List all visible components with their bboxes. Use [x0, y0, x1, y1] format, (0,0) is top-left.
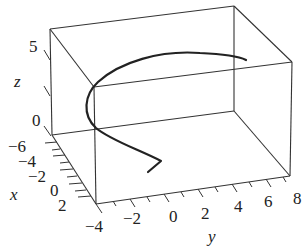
y-axis-ticks — [96, 177, 286, 213]
z-axis-ticks — [44, 50, 51, 136]
y-tick-neg2: −2 — [123, 209, 141, 228]
x-tick-2: 2 — [58, 196, 67, 215]
y-tick-8: 8 — [293, 189, 302, 208]
z-tick-5: 5 — [29, 37, 38, 56]
y-tick-neg4: −4 — [85, 217, 104, 236]
y-axis-label: y — [206, 227, 216, 246]
y-tick-6: 6 — [264, 192, 273, 211]
x-tick-neg2: −2 — [28, 167, 46, 186]
y-tick-2: 2 — [201, 204, 210, 223]
x-axis-label: x — [9, 185, 18, 204]
3d-curve-plot: 5 z 0 −6 −4 −2 0 2 x −4 −2 0 2 4 6 8 y — [0, 0, 302, 248]
z-tick-0: 0 — [32, 111, 41, 130]
y-tick-4: 4 — [234, 197, 243, 216]
z-axis-label: z — [13, 72, 21, 91]
y-tick-0: 0 — [169, 207, 178, 226]
